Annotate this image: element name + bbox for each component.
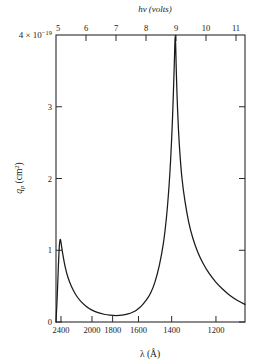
top-tick-label: 9 [174,23,178,33]
chart-svg: hν (volts) 4 × 10−19 567891011 240020001… [0,0,260,364]
bottom-axis-title: λ (Å) [140,348,160,360]
top-tick-label: 10 [202,23,211,33]
top-tick-label: 5 [56,23,60,33]
bottom-tick-label: 1200 [207,325,224,335]
top-axis-title: hν (volts) [138,4,172,14]
right-axis-ticks [239,107,245,322]
bottom-tick-label: 2000 [83,325,100,335]
y-tick-label: 0 [48,317,52,327]
data-curve [56,35,245,322]
top-tick-label: 7 [114,23,118,33]
bottom-tick-label: 2400 [52,325,69,335]
bottom-tick-label: 1400 [163,325,180,335]
bottom-axis-ticks [61,316,216,322]
y-axis-tick-labels: 0123 [48,102,52,327]
y-axis-title: qp (cm2) [13,162,25,194]
top-tick-label: 6 [84,23,88,33]
figure-container: hν (volts) 4 × 10−19 567891011 240020001… [0,0,260,364]
top-tick-label: 11 [232,23,240,33]
plot-frame [56,35,245,322]
top-axis-tick-labels: 567891011 [56,23,240,33]
bottom-tick-label: 1600 [130,325,147,335]
svg-text:qp (cm2): qp (cm2) [13,162,25,194]
bottom-axis-tick-labels: 240020001800160014001200 [52,325,224,335]
top-tick-label: 8 [144,23,148,33]
y-tick-label: 2 [48,174,52,184]
bottom-tick-label: 1800 [104,325,121,335]
y-tick-label: 3 [48,102,52,112]
y-tick-label: 1 [48,245,52,255]
y-axis-scale-note: 4 × 10−19 [19,29,52,41]
top-axis-ticks [86,35,236,41]
